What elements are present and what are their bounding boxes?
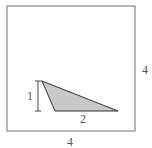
shaded-triangle — [42, 81, 118, 111]
square-bottom-label: 4 — [67, 136, 73, 148]
height-marker — [35, 81, 42, 111]
diagram-canvas — [0, 0, 152, 148]
square-side-label: 4 — [142, 64, 148, 76]
triangle-height-label: 1 — [27, 90, 33, 102]
triangle-base-label: 2 — [80, 113, 86, 125]
outer-square — [7, 6, 135, 131]
